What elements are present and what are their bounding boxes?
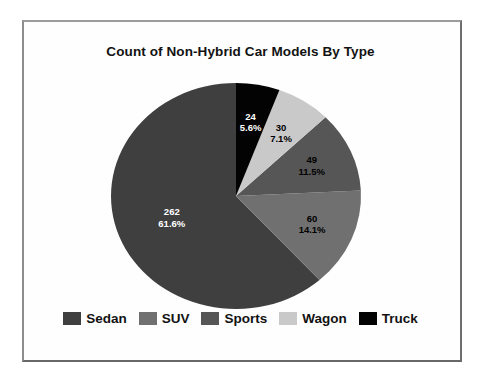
legend-swatch-sedan: [63, 312, 81, 325]
legend-label-truck: Truck: [382, 311, 418, 326]
legend-item-suv: SUV: [139, 311, 190, 326]
legend-swatch-sports: [201, 312, 219, 325]
legend-item-truck: Truck: [359, 311, 418, 326]
legend-item-sedan: Sedan: [63, 311, 127, 326]
legend-item-wagon: Wagon: [279, 311, 347, 326]
legend-label-wagon: Wagon: [302, 311, 347, 326]
legend-label-sports: Sports: [224, 311, 267, 326]
chart-image: Count of Non-Hybrid Car Models By Type 2…: [0, 0, 481, 377]
legend-label-suv: SUV: [162, 311, 190, 326]
chart-legend: SedanSUVSportsWagonTruck: [0, 311, 481, 326]
legend-item-sports: Sports: [201, 311, 267, 326]
legend-swatch-truck: [359, 312, 377, 325]
legend-swatch-wagon: [279, 312, 297, 325]
legend-label-sedan: Sedan: [86, 311, 127, 326]
legend-swatch-suv: [139, 312, 157, 325]
